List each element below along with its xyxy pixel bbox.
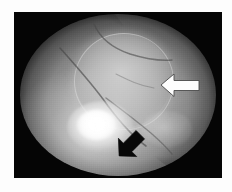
figure-root: Grayscale fundus photograph showing a do…	[0, 0, 232, 192]
feature-lesion-edge	[74, 33, 174, 131]
feature-soft-ridge	[142, 111, 193, 147]
vignette-shadow-left	[20, 14, 134, 131]
white-arrow-marker	[160, 72, 200, 98]
photo-frame	[14, 12, 222, 178]
feature-lesion-oval	[75, 33, 171, 127]
black-arrow-marker	[110, 126, 148, 166]
